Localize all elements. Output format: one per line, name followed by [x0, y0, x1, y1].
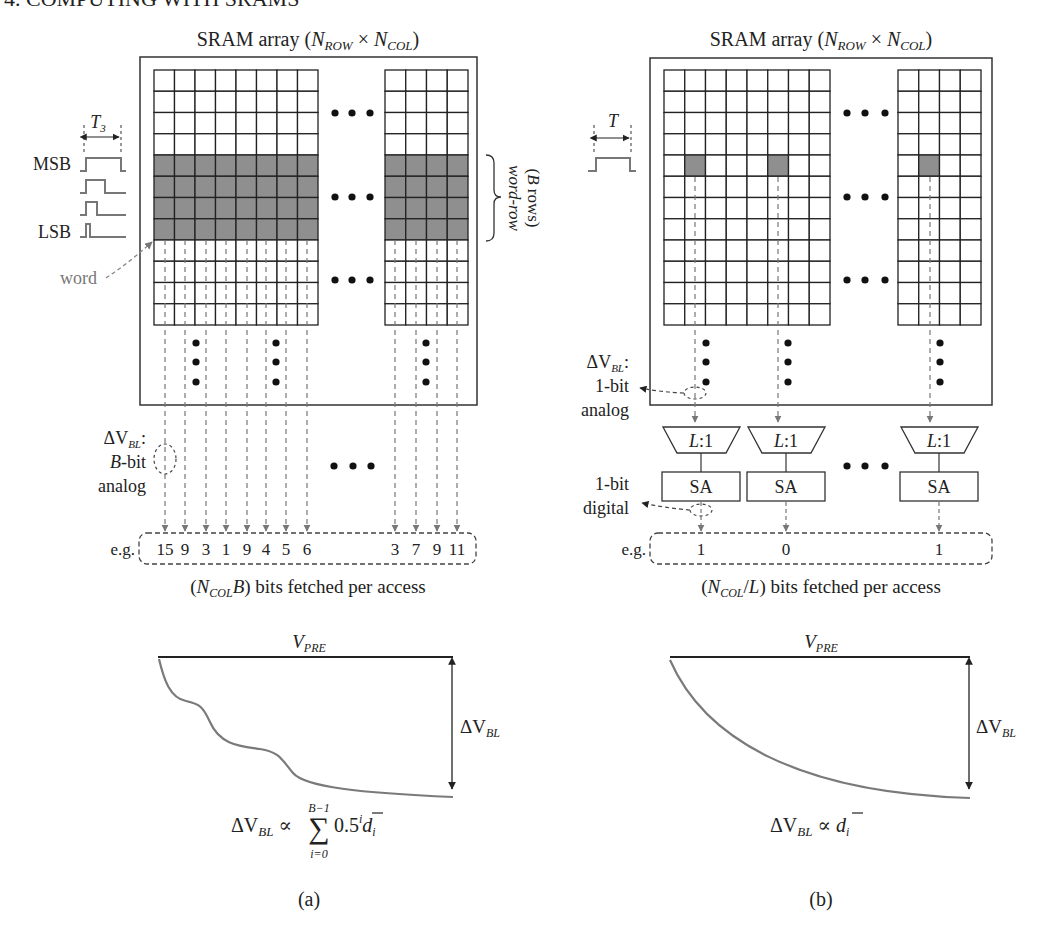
sram-grid-a [154, 70, 468, 325]
sram-cell [154, 304, 175, 325]
sram-cell [195, 240, 216, 261]
sram-cell [768, 70, 789, 91]
sum-symbol: ∑ [308, 811, 329, 845]
sram-cell [726, 261, 747, 282]
sram-cell [385, 176, 406, 197]
sram-cell [175, 155, 196, 176]
sram-cell [685, 113, 706, 134]
sram-cell [726, 134, 747, 155]
sram-cell [706, 113, 727, 134]
sram-cell [940, 176, 961, 197]
sram-cell [747, 70, 768, 91]
sram-cell [277, 304, 298, 325]
sram-cell [809, 113, 830, 134]
sram-cell [940, 113, 961, 134]
sram-cell [940, 134, 961, 155]
sram-cell [898, 155, 919, 176]
sram-cell [277, 70, 298, 91]
sram-cell [175, 134, 196, 155]
sram-cell [277, 176, 298, 197]
caption-b: (b) [809, 888, 832, 911]
sram-cell [898, 240, 919, 261]
sram-cell [447, 155, 468, 176]
sram-cell [277, 240, 298, 261]
pulse-2 [80, 180, 126, 193]
sram-cell [154, 91, 175, 112]
sram-cell [789, 70, 810, 91]
sram-cell [257, 113, 278, 134]
sram-cell [257, 70, 278, 91]
sram-cell [809, 91, 830, 112]
sram-cell [898, 283, 919, 304]
word-label: word [60, 268, 97, 288]
sram-cell [685, 155, 706, 176]
sram-cell [257, 155, 278, 176]
sram-cell [706, 155, 727, 176]
sram-cell [447, 91, 468, 112]
dv-bl-label-a: ΔVBL: [104, 428, 146, 450]
sram-cell [706, 219, 727, 240]
sram-cell [898, 70, 919, 91]
example-value-a: 9 [181, 540, 190, 559]
sram-cell [789, 219, 810, 240]
example-value-a: 6 [303, 540, 312, 559]
sram-cell [747, 176, 768, 197]
sram-cell [298, 113, 319, 134]
sram-cell [216, 113, 237, 134]
sram-cell [664, 134, 685, 155]
sram-cell [940, 219, 961, 240]
sram-cell [789, 198, 810, 219]
sram-cell [277, 91, 298, 112]
example-value-a: 3 [202, 540, 211, 559]
svg-text:i=0: i=0 [310, 847, 327, 861]
sram-cell [706, 70, 727, 91]
sram-cell [406, 113, 427, 134]
sram-cell [236, 113, 257, 134]
sram-cell [809, 219, 830, 240]
bits-fetched-a: (NCOLB) bits fetched per access [190, 576, 425, 600]
svg-text:B−1: B−1 [308, 801, 329, 815]
sram-cell [664, 91, 685, 112]
sram-cell [427, 176, 448, 197]
sram-cell [427, 113, 448, 134]
lsb-label: LSB [38, 222, 71, 242]
sram-cell [747, 134, 768, 155]
sram-cell [960, 91, 981, 112]
sram-cell [298, 240, 319, 261]
sram-cell [427, 134, 448, 155]
sram-cell [447, 134, 468, 155]
example-values-a: 15931945637911 [157, 540, 466, 559]
sram-cell [726, 176, 747, 197]
sram-cell [789, 155, 810, 176]
sram-cell [706, 176, 727, 197]
sram-cell [919, 261, 940, 282]
sram-cell [726, 113, 747, 134]
b-bit-label: B-bit [110, 452, 146, 472]
pulse-period-b: T [588, 111, 636, 171]
sram-cell [154, 155, 175, 176]
sram-computing-figure: 4. COMPUTING WITH SRAMS SRAM array (NROW… [0, 0, 1042, 936]
sram-cell [195, 70, 216, 91]
sram-cell [175, 176, 196, 197]
array-title-a: SRAM array (NROW × NCOL) [197, 28, 420, 53]
sram-cell [447, 176, 468, 197]
sram-cell [154, 261, 175, 282]
sram-cell [236, 134, 257, 155]
example-value-a: 11 [449, 540, 465, 559]
sram-cell [685, 134, 706, 155]
sram-cell [726, 283, 747, 304]
sram-cell [960, 219, 981, 240]
formula-a: ΔVBL ∝ ∑ B−1 i=0 0.5idi [231, 801, 383, 861]
sram-cell [960, 304, 981, 325]
example-value-a: 3 [391, 540, 400, 559]
sram-cell [447, 198, 468, 219]
sram-cell [257, 304, 278, 325]
eg-label-a: e.g. [110, 540, 135, 559]
sram-cell [898, 198, 919, 219]
sram-cell [236, 198, 257, 219]
mux-row: L:1 L:1 L:1 [663, 427, 978, 472]
sram-cell [216, 134, 237, 155]
sram-cell [298, 70, 319, 91]
sram-cell [809, 198, 830, 219]
panel-b: SRAM array (NROW × NCOL) T [581, 28, 1016, 911]
